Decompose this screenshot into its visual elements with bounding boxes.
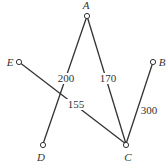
node-label-c: C	[124, 151, 132, 163]
edge-weight-e-c: 155	[68, 98, 85, 110]
edge-b-c	[126, 62, 153, 144]
node-label-b: B	[159, 56, 166, 68]
node-a	[84, 13, 89, 18]
node-e	[16, 59, 21, 64]
node-label-d: D	[36, 151, 45, 163]
edge-weight-a-c: 170	[100, 72, 117, 84]
node-label-e: E	[6, 56, 14, 68]
node-c	[123, 142, 128, 147]
node-d	[40, 142, 45, 147]
node-label-a: A	[82, 0, 90, 11]
edge-weight-a-d: 200	[58, 72, 75, 84]
edge-weight-b-c: 300	[141, 104, 158, 116]
node-b	[150, 59, 155, 64]
graph-diagram: 200 170 155 300 A B C D E	[0, 0, 168, 165]
graph-svg: 200 170 155 300 A B C D E	[0, 0, 168, 165]
